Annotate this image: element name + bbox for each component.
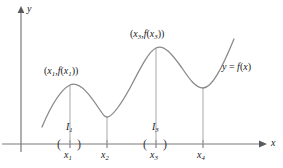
function-label: y = f(x) <box>222 62 251 72</box>
x-axis-label: x <box>271 138 275 148</box>
point-label-x3-close: ) <box>161 28 164 39</box>
x-tick-label-1-sub: 1 <box>68 154 71 161</box>
interval-label-i1: I1 <box>66 122 73 134</box>
function-graph-figure: y x (x1,f(x1)) (x3,f(x3)) y = f(x) ( ) I… <box>0 0 283 168</box>
point-label-x1-close: ) <box>75 65 78 76</box>
interval-label-i3-sub: 3 <box>155 126 158 133</box>
function-label-paren-close: ) <box>248 61 251 72</box>
interval-label-i1-sub: 1 <box>69 126 72 133</box>
x-tick-label-4-sub: 4 <box>201 154 204 161</box>
interval-label-i3: I3 <box>152 122 159 134</box>
x-tick-label-3: x3 <box>150 150 158 162</box>
function-label-equals: = <box>226 61 237 72</box>
interval-i3-close-paren: ) <box>163 138 167 150</box>
x-tick-label-1: x1 <box>64 150 72 162</box>
x-axis-arrow-icon <box>259 141 267 148</box>
point-label-x3: (x3,f(x3)) <box>130 29 164 41</box>
function-curve <box>42 39 234 127</box>
x-tick-label-3-sub: 3 <box>154 154 157 161</box>
x-tick-label-2: x2 <box>101 150 109 162</box>
x-tick-label-2-sub: 2 <box>105 154 108 161</box>
x-tick-label-4: x4 <box>197 150 205 162</box>
y-axis-arrow-icon <box>18 6 25 13</box>
interval-i3-open-paren: ( <box>143 138 147 150</box>
point-label-x1: (x1,f(x1)) <box>44 66 78 78</box>
interval-i1-open-paren: ( <box>57 138 61 150</box>
interval-i1-close-paren: ) <box>77 138 81 150</box>
y-axis-label: y <box>27 4 31 14</box>
graph-canvas <box>0 0 283 168</box>
